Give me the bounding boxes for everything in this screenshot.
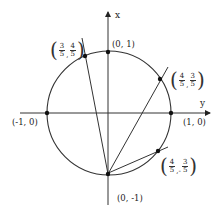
label-q1: ( 45 , 35 ) (170, 70, 205, 90)
line-to-q1-point (108, 67, 168, 174)
unit-circle-diagram (0, 0, 219, 212)
point-bottom (106, 172, 110, 176)
point-q1 (158, 77, 162, 81)
label-top: (0, 1) (112, 40, 135, 49)
right-paren: ) (197, 70, 205, 91)
right-paren: ) (77, 40, 85, 61)
left-paren: ( (170, 70, 178, 91)
point-top (106, 50, 110, 54)
label-q4: ( 45 ,- 35 ) (160, 156, 197, 176)
left-paren: ( (160, 156, 168, 177)
left-paren: ( (50, 40, 58, 61)
label-left: (-1, 0) (12, 118, 38, 127)
line-to-q2-point (82, 38, 108, 174)
label-right: (1, 0) (183, 118, 206, 127)
horizontal-axis-label: y (200, 98, 205, 108)
label-q2: ( 35 , 45 ) (50, 40, 85, 60)
point-right (169, 111, 173, 115)
point-left (45, 111, 49, 115)
right-paren: ) (189, 156, 197, 177)
vertical-axis-label: x (115, 10, 120, 20)
label-bottom: (0, -1) (117, 194, 143, 203)
